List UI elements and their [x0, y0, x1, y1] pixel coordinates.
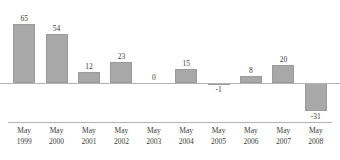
category-label: May2001 — [73, 126, 105, 147]
bar-group: -31 — [300, 0, 332, 122]
bar-value-label: -1 — [215, 85, 221, 94]
category-year: 2000 — [40, 137, 72, 148]
bar-group: 8 — [235, 0, 267, 122]
bar-group: 54 — [40, 0, 72, 122]
axis-rule — [8, 122, 332, 123]
bar[interactable] — [272, 65, 294, 83]
bar-value-label: -31 — [311, 112, 321, 121]
category-year: 1999 — [8, 137, 40, 148]
category-year: 2008 — [300, 137, 332, 148]
bar[interactable] — [240, 76, 262, 83]
category-year: 2007 — [267, 137, 299, 148]
bar[interactable] — [110, 62, 132, 83]
bar-value-label: 20 — [280, 55, 288, 64]
category-month: May — [300, 126, 332, 137]
bar-group: -1 — [202, 0, 234, 122]
bar-group: 12 — [73, 0, 105, 122]
plot-area: 65541223015-1820-31 — [0, 0, 340, 122]
category-year: 2006 — [235, 137, 267, 148]
category-label: May2004 — [170, 126, 202, 147]
bar[interactable] — [46, 34, 68, 83]
category-year: 2004 — [170, 137, 202, 148]
bar-group: 20 — [267, 0, 299, 122]
bar-value-label: 15 — [182, 59, 190, 68]
zero-baseline — [0, 83, 340, 84]
category-month: May — [170, 126, 202, 137]
bar-value-label: 65 — [20, 14, 28, 23]
category-month: May — [138, 126, 170, 137]
category-axis: May1999May2000May2001May2002May2003May20… — [0, 126, 340, 160]
category-month: May — [202, 126, 234, 137]
category-label: May2000 — [40, 126, 72, 147]
bar-value-label: 12 — [85, 62, 93, 71]
bar-value-label: 8 — [249, 66, 253, 75]
category-label: May2005 — [202, 126, 234, 147]
category-month: May — [8, 126, 40, 137]
category-label: May2003 — [138, 126, 170, 147]
category-month: May — [73, 126, 105, 137]
category-label: May2007 — [267, 126, 299, 147]
bar[interactable] — [13, 24, 35, 83]
category-month: May — [105, 126, 137, 137]
bar[interactable] — [305, 83, 327, 111]
bar-chart: 65541223015-1820-31 May1999May2000May200… — [0, 0, 340, 160]
bar-value-label: 54 — [53, 24, 61, 33]
category-year: 2005 — [202, 137, 234, 148]
bar-group: 65 — [8, 0, 40, 122]
bar-value-label: 0 — [152, 73, 156, 82]
category-year: 2003 — [138, 137, 170, 148]
category-label: May2006 — [235, 126, 267, 147]
bar[interactable] — [78, 72, 100, 83]
bar-group: 0 — [138, 0, 170, 122]
category-label: May2008 — [300, 126, 332, 147]
category-label: May1999 — [8, 126, 40, 147]
category-month: May — [235, 126, 267, 137]
category-month: May — [267, 126, 299, 137]
bar[interactable] — [175, 69, 197, 83]
bar-group: 15 — [170, 0, 202, 122]
bar-group: 23 — [105, 0, 137, 122]
category-month: May — [40, 126, 72, 137]
category-label: May2002 — [105, 126, 137, 147]
category-year: 2001 — [73, 137, 105, 148]
category-year: 2002 — [105, 137, 137, 148]
bar-value-label: 23 — [118, 52, 126, 61]
